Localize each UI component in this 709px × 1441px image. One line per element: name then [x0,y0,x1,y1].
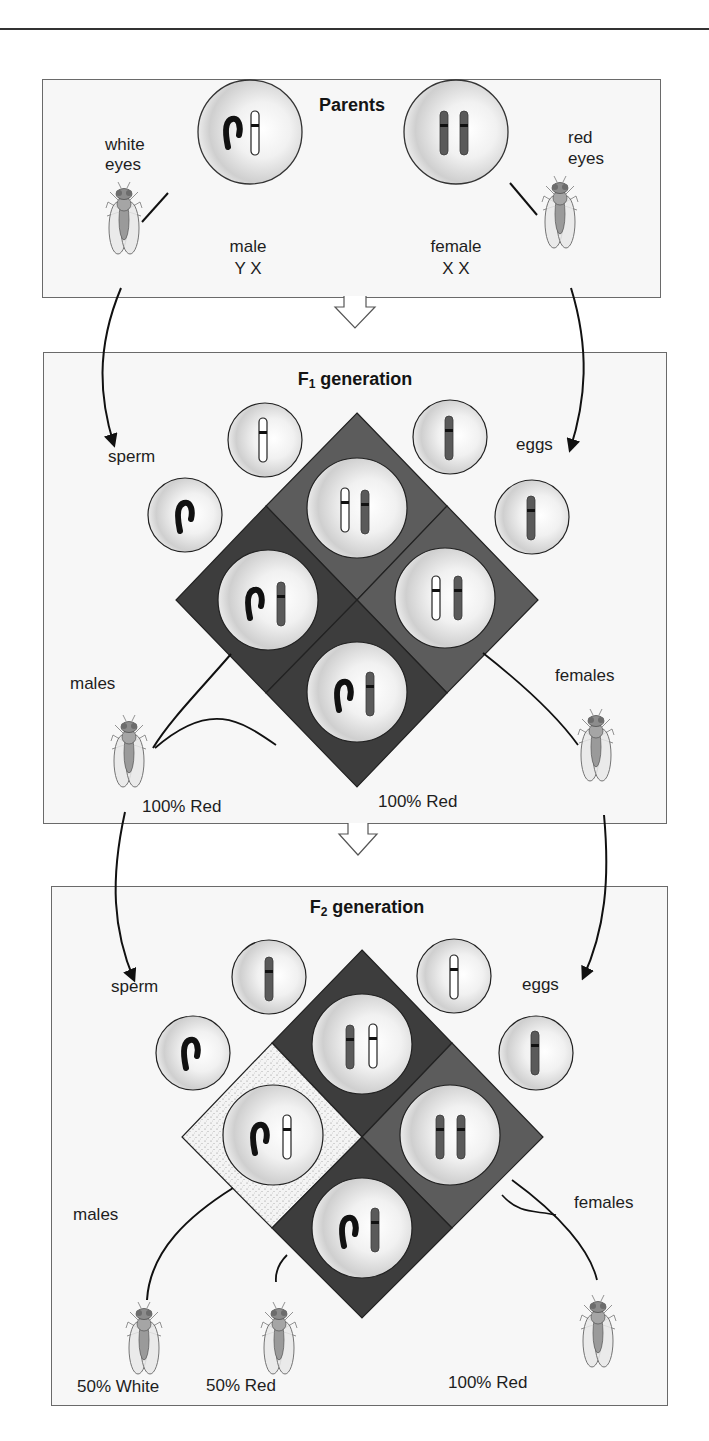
f2-cell-left [223,1085,323,1185]
f2-eggs-label: eggs [522,975,559,994]
f1-cell-left [218,550,318,650]
parent-red-eyed-female-fly-icon [542,176,578,248]
f2-title-suffix: generation [327,897,424,917]
f2-sperm-label: sperm [111,977,158,996]
f1-sperm-label: sperm [108,447,155,466]
f1-title-suffix: generation [315,369,412,389]
down-arrow-to-f1-icon [335,296,375,328]
f1-females-label: females [555,666,615,685]
f2-title-prefix: F [310,897,321,917]
f1-males-result: 100% Red [142,797,221,816]
f1-female-fly-icon [578,709,614,781]
red-eyes-label-line2: eyes [568,149,604,168]
down-arrow-to-f2-icon [339,823,377,855]
female-cell-label: female [430,237,481,256]
f2-title-subscript: 2 [321,905,328,919]
f2-male-red-result: 50% Red [206,1376,276,1395]
f2-cell-bottom [312,1178,412,1278]
f1-eggs-label: eggs [516,435,553,454]
male-to-sperm-arrow [102,288,121,445]
f1-cell-top [307,458,407,558]
f1-cell-bottom [307,642,407,742]
f1-male-fly-icon [111,715,147,787]
f2-females-result: 100% Red [448,1373,527,1392]
f2-egg-x-white [417,939,491,1013]
f2-red-male-connector [276,1255,287,1282]
f1-title-subscript: 1 [309,377,316,391]
f2-white-male-connector [147,1188,233,1300]
f2-red-eyed-male-fly-icon [261,1302,297,1374]
white-eyes-label-line2: eyes [105,155,141,174]
f1-sperm-y [148,478,222,552]
white-eyes-label-line1: white [105,135,145,154]
female-to-eggs-arrow [570,288,584,450]
f2-sperm-y [156,1016,230,1090]
f1-sperm-x-white [228,403,302,477]
female-genotype: X X [442,259,469,278]
male-genotype: Y X [234,259,261,278]
f2-females-label: females [574,1193,634,1212]
f1-females-result: 100% Red [378,792,457,811]
f2-red-eyed-female-fly-icon [580,1295,616,1367]
f1-egg-x-red-1 [413,400,487,474]
f1-title: F1 generation [298,369,413,391]
f1-egg-x-red-2 [495,480,569,554]
f2-cell-top [312,994,412,1094]
diagram-graphics [0,0,709,1441]
parent-female-cell [404,80,508,184]
red-eyes-label-line1: red [568,128,593,147]
f1-female-to-eggs-arrow [583,815,606,978]
drosophila-sex-linked-inheritance-figure: Parents white eyes red eyes male Y X fem… [0,0,709,1441]
male-cell-label: male [230,237,267,256]
f1-title-prefix: F [298,369,309,389]
f2-white-eyed-male-fly-icon [126,1302,162,1374]
f2-sperm-x-red [232,940,306,1014]
f1-male-connector [153,654,231,748]
f2-cell-right [400,1085,500,1185]
parent-white-eyed-male-fly-icon [106,182,142,254]
parents-title: Parents [319,95,385,116]
f2-egg-x-red [499,1016,573,1090]
f2-male-white-result: 50% White [77,1377,159,1396]
f1-male-to-sperm-arrow [116,812,134,980]
f2-title: F2 generation [310,897,425,919]
f1-males-label: males [70,674,115,693]
parent-male-cell [198,80,302,184]
f1-cell-right [395,548,495,648]
f2-males-label: males [73,1205,118,1224]
